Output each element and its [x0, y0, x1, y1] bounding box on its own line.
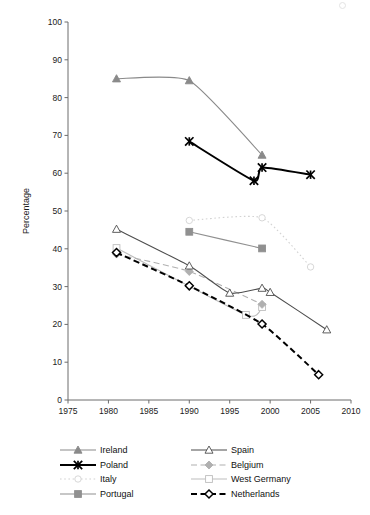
legend-row: PolandBelgium — [58, 458, 320, 473]
data-point-marker — [185, 137, 193, 145]
legend-item-portugal[interactable]: Portugal — [58, 487, 189, 501]
y-tick-label: 80 — [53, 93, 63, 103]
legend-item-west-germany[interactable]: West Germany — [189, 472, 320, 486]
y-tick-label: 60 — [53, 168, 63, 178]
y-tick-label: 10 — [53, 357, 63, 367]
data-point-marker — [259, 215, 265, 221]
legend-label-netherlands: Netherlands — [229, 487, 280, 501]
legend-marker-portugal — [58, 487, 98, 501]
data-point-marker — [75, 490, 82, 497]
series-line — [117, 253, 319, 375]
legend-key-west-germany — [189, 472, 229, 486]
legend-label-ireland: Ireland — [98, 443, 128, 457]
y-tick-label: 50 — [53, 206, 63, 216]
legend-label-poland: Poland — [98, 458, 128, 472]
series-line — [189, 232, 262, 249]
data-point-marker — [186, 217, 192, 223]
legend-item-poland[interactable]: Poland — [58, 458, 189, 472]
legend-label-portugal: Portugal — [98, 487, 134, 501]
data-point-marker — [206, 476, 213, 483]
data-point-marker — [185, 262, 193, 269]
legend-key-netherlands — [189, 487, 229, 501]
data-point-marker — [185, 77, 193, 84]
y-tick-label: 40 — [53, 244, 63, 254]
legend-key-portugal — [58, 487, 98, 501]
series-netherlands — [113, 249, 323, 379]
y-tick-label: 90 — [53, 55, 63, 65]
legend-marker-spain — [189, 443, 229, 457]
series-ireland — [113, 75, 267, 159]
y-tick-label: 0 — [57, 395, 62, 405]
legend-label-west-germany: West Germany — [229, 472, 291, 486]
data-point-marker — [205, 461, 213, 469]
data-point-marker — [75, 476, 81, 482]
series-line — [189, 141, 310, 181]
legend-marker-belgium — [189, 458, 229, 472]
legend-label-spain: Spain — [229, 443, 254, 457]
legend-label-italy: Italy — [98, 472, 117, 486]
legend-marker-poland — [58, 458, 98, 472]
legend-item-netherlands[interactable]: Netherlands — [189, 487, 320, 501]
data-point-marker — [226, 289, 234, 296]
legend-item-spain[interactable]: Spain — [189, 443, 320, 457]
y-tick-label: 30 — [53, 282, 63, 292]
line-chart: 0102030405060708090100197519801985199019… — [0, 0, 370, 515]
x-tick-label: 1990 — [180, 406, 199, 416]
legend-item-ireland[interactable]: Ireland — [58, 443, 189, 457]
data-point-marker — [258, 284, 266, 291]
legend-key-ireland — [58, 443, 98, 457]
x-tick-label: 2005 — [301, 406, 320, 416]
legend-key-italy — [58, 472, 98, 486]
legend-label-belgium: Belgium — [229, 458, 264, 472]
series-poland — [185, 137, 315, 185]
y-tick-label: 70 — [53, 130, 63, 140]
x-tick-label: 1975 — [59, 406, 78, 416]
legend-marker-west-germany — [189, 472, 229, 486]
legend-row: ItalyWest Germany — [58, 472, 320, 487]
data-point-marker — [315, 371, 323, 379]
y-tick-label: 100 — [48, 17, 62, 27]
data-point-marker — [185, 282, 193, 290]
y-axis-title: Percentage — [21, 188, 31, 234]
data-point-marker — [323, 326, 331, 333]
x-tick-label: 1980 — [99, 406, 118, 416]
series-spain — [113, 225, 331, 333]
x-tick-label: 1985 — [139, 406, 158, 416]
data-point-marker — [113, 225, 121, 232]
data-point-marker — [186, 228, 193, 235]
x-tick-label: 2010 — [342, 406, 361, 416]
series-italy — [186, 215, 314, 271]
data-point-marker — [205, 490, 213, 498]
legend-key-poland — [58, 458, 98, 472]
legend-row: IrelandSpain — [58, 443, 320, 458]
data-point-marker — [266, 288, 274, 295]
legend-item-belgium[interactable]: Belgium — [189, 458, 320, 472]
legend-marker-ireland — [58, 443, 98, 457]
y-tick-label: 20 — [53, 319, 63, 329]
series-portugal — [186, 228, 266, 251]
data-point-marker — [259, 245, 266, 252]
legend-marker-italy — [58, 472, 98, 486]
x-tick-label: 2000 — [261, 406, 280, 416]
legend-row: PortugalNetherlands — [58, 487, 320, 502]
x-tick-label: 1995 — [220, 406, 239, 416]
series-line — [117, 229, 327, 330]
series-line — [189, 216, 310, 267]
legend-item-italy[interactable]: Italy — [58, 472, 189, 486]
legend-marker-netherlands — [189, 487, 229, 501]
chart-legend: IrelandSpainPolandBelgiumItalyWest Germa… — [58, 443, 320, 501]
legend-key-spain — [189, 443, 229, 457]
data-point-marker — [307, 264, 313, 270]
series-belgium — [113, 250, 267, 308]
legend-key-belgium — [189, 458, 229, 472]
figure-container: 0102030405060708090100197519801985199019… — [0, 0, 370, 515]
